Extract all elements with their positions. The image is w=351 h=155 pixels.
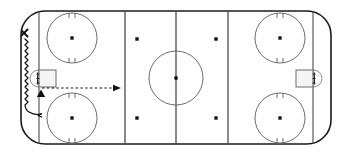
neutral-dot-left-bottom	[135, 116, 138, 119]
neutral-dot-right-bottom	[214, 116, 217, 119]
neutral-dot-right-top	[214, 37, 217, 40]
center-ice-dot	[174, 76, 178, 80]
hockey-rink-diagram	[0, 0, 351, 155]
rink-canvas	[0, 0, 351, 155]
neutral-dot-left-top	[135, 37, 138, 40]
